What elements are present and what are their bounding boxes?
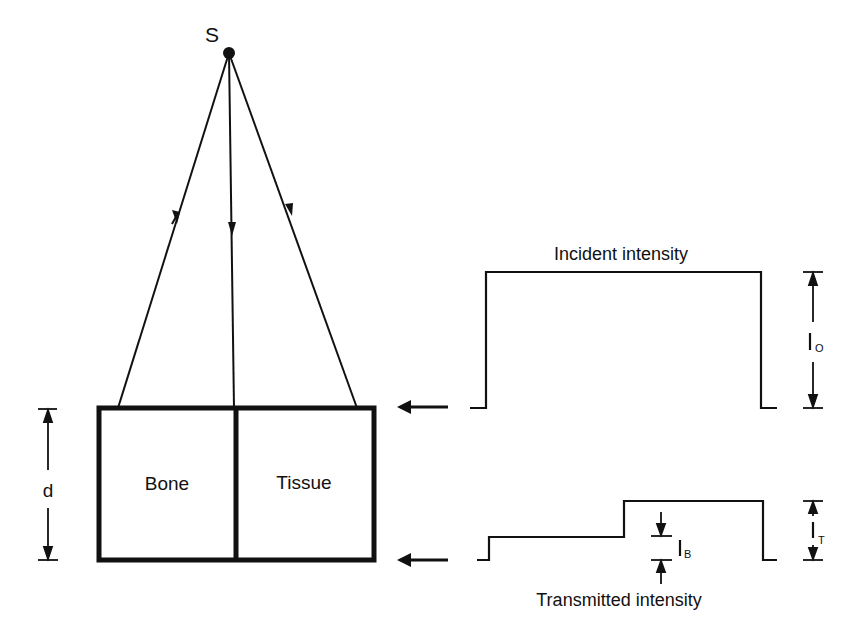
incident-dimension: [803, 272, 823, 408]
bone-label: Bone: [145, 473, 189, 494]
rays: [118, 53, 357, 408]
incident-arrow: [397, 400, 448, 414]
incident-profile: [470, 272, 777, 408]
transmitted-profile: [477, 501, 777, 560]
bone-dim-sub: B: [684, 548, 691, 560]
incident-intensity-title: Incident intensity: [554, 244, 688, 264]
ray-arrowheads: [172, 203, 293, 236]
xray-attenuation-diagram: S Bone Tissue d Incident intensity: [0, 0, 861, 644]
bone-tissue-slab: [99, 408, 374, 560]
transmitted-dimension: [803, 501, 823, 560]
transmitted-dim-sub: T: [818, 534, 825, 546]
transmitted-arrow: [397, 553, 448, 567]
incident-dim-sub: O: [815, 342, 824, 354]
bone-transmission-dimension: [651, 512, 680, 584]
transmitted-intensity-title: Transmitted intensity: [536, 590, 701, 610]
thickness-label: d: [43, 480, 54, 501]
tissue-label: Tissue: [276, 472, 331, 493]
source-label: S: [205, 23, 219, 46]
